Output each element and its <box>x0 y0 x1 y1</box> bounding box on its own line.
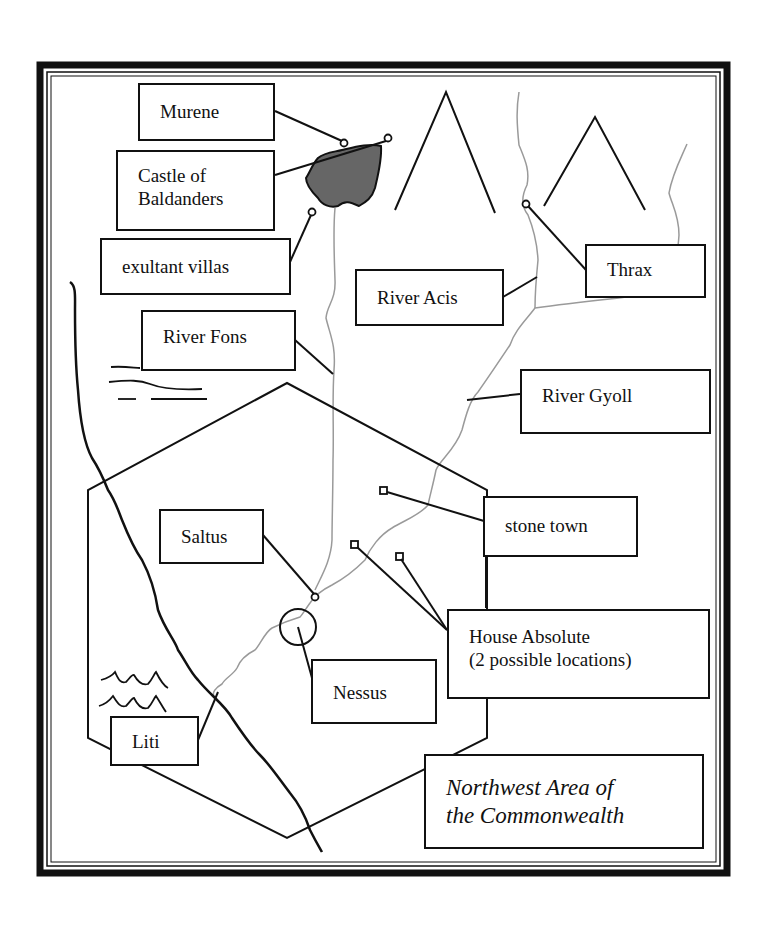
label-liti: Liti <box>110 716 199 766</box>
label-text: Castle of <box>138 164 273 187</box>
label-river-acis: River Acis <box>355 269 504 326</box>
label-text: exultant villas <box>122 255 289 278</box>
label-text: Baldanders <box>138 187 273 210</box>
label-text: (2 possible locations) <box>469 648 708 671</box>
label-text: River Gyoll <box>542 384 709 407</box>
label-stone-town: stone town <box>483 496 638 557</box>
map-title-line1: Northwest Area of <box>446 774 702 802</box>
label-nessus: Nessus <box>311 659 437 724</box>
label-thrax: Thrax <box>585 244 706 298</box>
label-house-absolute: House Absolute (2 possible locations) <box>447 609 710 699</box>
label-saltus: Saltus <box>159 509 264 564</box>
map-title-box: Northwest Area of the Commonwealth <box>424 754 704 849</box>
label-exultant-villas: exultant villas <box>100 238 291 295</box>
label-murene: Murene <box>138 83 275 141</box>
label-text: Nessus <box>333 681 435 704</box>
label-river-gyoll: River Gyoll <box>520 369 711 434</box>
mountain-icon <box>395 92 495 213</box>
label-text: Liti <box>132 730 197 753</box>
label-text: Saltus <box>181 525 262 548</box>
label-text: River Fons <box>163 325 294 348</box>
label-text: River Acis <box>377 286 502 309</box>
label-text: House Absolute <box>469 625 708 648</box>
sea-waves-south <box>99 672 168 712</box>
label-text: Murene <box>160 100 273 123</box>
label-river-fons: River Fons <box>141 310 296 371</box>
label-text: stone town <box>505 514 636 537</box>
sea-waves-north <box>109 367 207 399</box>
label-text: Thrax <box>607 258 704 281</box>
label-castle-of-baldanders: Castle of Baldanders <box>116 150 275 231</box>
marker-icons <box>280 135 530 646</box>
map-title-line2: the Commonwealth <box>446 802 702 830</box>
mountain-icon <box>544 117 645 210</box>
